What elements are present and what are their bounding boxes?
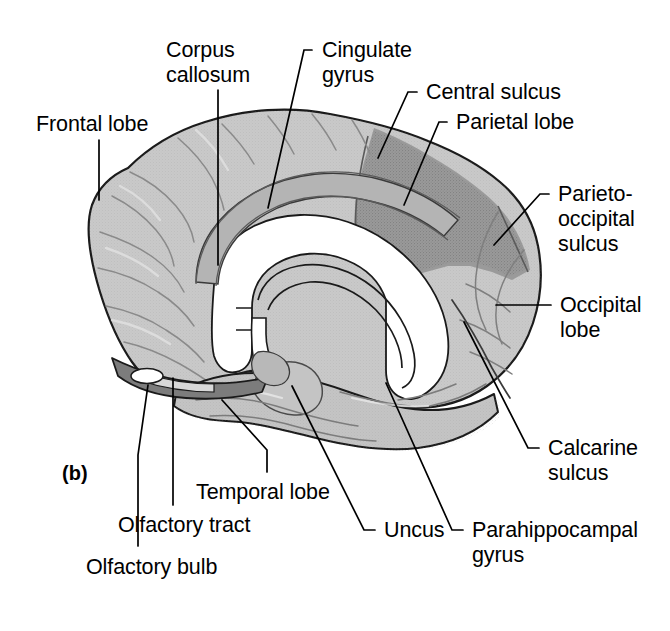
panel-tag: (b) bbox=[62, 462, 88, 485]
label-olfactory-tract: Olfactory tract bbox=[118, 513, 250, 538]
label-olfactory-bulb: Olfactory bulb bbox=[86, 555, 217, 580]
label-temporal-lobe: Temporal lobe bbox=[196, 480, 330, 505]
label-occipital-lobe: Occipital lobe bbox=[560, 293, 642, 343]
brain-medial-surface-figure: Frontal lobeCorpus callosumCingulate gyr… bbox=[0, 0, 670, 631]
cerebrum-body bbox=[80, 100, 560, 465]
olfactory-bulb-shape bbox=[131, 369, 163, 384]
label-corpus-callosum: Corpus callosum bbox=[166, 38, 250, 88]
label-calcarine-sulcus: Calcarine sulcus bbox=[548, 436, 638, 486]
label-central-sulcus: Central sulcus bbox=[426, 80, 561, 105]
label-parietal-lobe: Parietal lobe bbox=[456, 110, 574, 135]
label-uncus: Uncus bbox=[384, 518, 444, 543]
label-parahippocampal-gyrus: Parahippocampal gyrus bbox=[472, 518, 638, 568]
label-parieto-occipital-sulcus: Parieto- occipital sulcus bbox=[558, 182, 635, 257]
label-cingulate-gyrus: Cingulate gyrus bbox=[322, 38, 412, 88]
label-frontal-lobe: Frontal lobe bbox=[36, 112, 148, 137]
